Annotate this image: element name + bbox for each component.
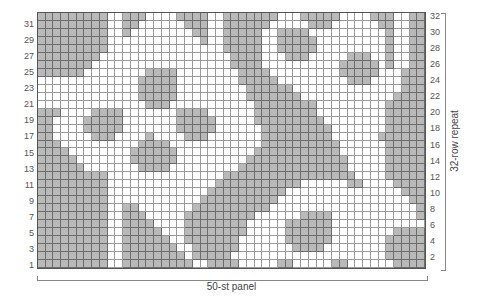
chart-cell	[108, 148, 116, 156]
chart-cell	[293, 212, 301, 220]
chart-cell	[193, 93, 201, 101]
chart-cell	[216, 37, 224, 45]
chart-cell	[278, 85, 286, 93]
chart-cell	[417, 21, 425, 29]
chart-cell	[293, 45, 301, 53]
chart-cell	[69, 236, 77, 244]
chart-cell	[115, 13, 123, 21]
chart-cell	[301, 180, 309, 188]
chart-cell	[61, 141, 69, 149]
chart-cell	[46, 77, 54, 85]
chart-cell	[324, 228, 332, 236]
chart-cell	[61, 212, 69, 220]
chart-cell	[255, 133, 263, 141]
chart-cell	[53, 53, 61, 61]
chart-cell	[146, 101, 154, 109]
chart-cell	[270, 260, 278, 268]
chart-cell	[371, 109, 379, 117]
chart-cell	[185, 204, 193, 212]
chart-cell	[146, 85, 154, 93]
chart-cell	[239, 156, 247, 164]
chart-cell	[146, 21, 154, 29]
chart-cell	[53, 125, 61, 133]
chart-cell	[340, 77, 348, 85]
chart-cell	[185, 148, 193, 156]
chart-cell	[69, 37, 77, 45]
chart-cell	[77, 21, 85, 29]
row-number-label: 11	[18, 181, 34, 189]
chart-cell	[69, 204, 77, 212]
chart-cell	[84, 172, 92, 180]
chart-cell	[108, 204, 116, 212]
chart-cell	[100, 141, 108, 149]
chart-cell	[239, 164, 247, 172]
chart-cell	[216, 109, 224, 117]
chart-cell	[84, 156, 92, 164]
chart-cell	[92, 141, 100, 149]
chart-cell	[216, 196, 224, 204]
chart-cell	[410, 148, 418, 156]
chart-cell	[53, 260, 61, 268]
chart-cell	[394, 125, 402, 133]
chart-cell	[340, 228, 348, 236]
chart-cell	[69, 61, 77, 69]
chart-cell	[247, 172, 255, 180]
chart-cell	[340, 45, 348, 53]
chart-cell	[417, 45, 425, 53]
chart-cell	[371, 117, 379, 125]
chart-cell	[394, 252, 402, 260]
chart-cell	[262, 13, 270, 21]
chart-cell	[348, 69, 356, 77]
chart-cell	[46, 125, 54, 133]
chart-cell	[402, 37, 410, 45]
chart-cell	[92, 260, 100, 268]
chart-cell	[185, 156, 193, 164]
chart-cell	[332, 61, 340, 69]
chart-cell	[386, 180, 394, 188]
chart-cell	[379, 141, 387, 149]
chart-cell	[84, 117, 92, 125]
chart-cell	[177, 101, 185, 109]
chart-cell	[332, 101, 340, 109]
chart-cell	[170, 13, 178, 21]
chart-cell	[293, 133, 301, 141]
chart-cell	[247, 252, 255, 260]
chart-cell	[363, 13, 371, 21]
chart-cell	[170, 212, 178, 220]
chart-cell	[270, 77, 278, 85]
chart-cell	[239, 53, 247, 61]
chart-cell	[301, 252, 309, 260]
chart-cell	[410, 125, 418, 133]
chart-cell	[410, 77, 418, 85]
chart-cell	[286, 21, 294, 29]
chart-cell	[363, 109, 371, 117]
chart-cell	[286, 188, 294, 196]
chart-cell	[115, 133, 123, 141]
chart-cell	[100, 109, 108, 117]
chart-cell	[386, 172, 394, 180]
chart-cell	[208, 148, 216, 156]
chart-cell	[340, 236, 348, 244]
chart-cell	[208, 29, 216, 37]
chart-cell	[309, 133, 317, 141]
chart-cell	[262, 117, 270, 125]
chart-cell	[38, 212, 46, 220]
chart-cell	[61, 85, 69, 93]
row-number-label: 25	[18, 68, 34, 76]
chart-cell	[394, 196, 402, 204]
chart-cell	[162, 196, 170, 204]
chart-cell	[270, 148, 278, 156]
chart-cell	[224, 172, 232, 180]
chart-cell	[363, 156, 371, 164]
chart-cell	[410, 21, 418, 29]
chart-cell	[139, 260, 147, 268]
chart-cell	[201, 13, 209, 21]
chart-cell	[216, 244, 224, 252]
chart-cell	[115, 172, 123, 180]
chart-cell	[162, 260, 170, 268]
chart-cell	[231, 69, 239, 77]
chart-cell	[386, 77, 394, 85]
chart-cell	[348, 212, 356, 220]
chart-cell	[309, 180, 317, 188]
chart-cell	[324, 85, 332, 93]
